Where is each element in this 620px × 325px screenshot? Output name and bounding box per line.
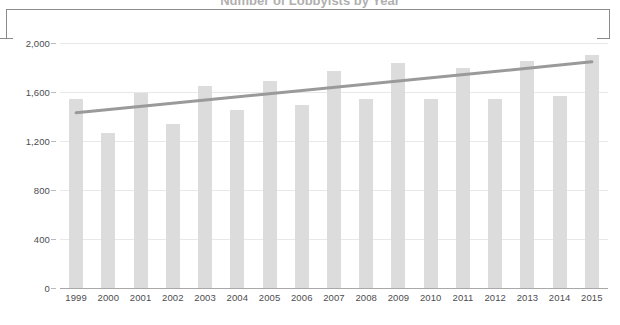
- y-tick-label: 0: [45, 283, 50, 294]
- x-tick-label: 2014: [544, 292, 576, 303]
- x-tick-label: 2001: [124, 292, 156, 303]
- x-tick-label: 2005: [253, 292, 285, 303]
- y-tick-label: 2,000: [26, 38, 50, 49]
- x-tick-label: 2003: [189, 292, 221, 303]
- trend-line-segment: [76, 62, 592, 113]
- x-tick-label: 2009: [382, 292, 414, 303]
- y-tick-mark: [51, 239, 56, 240]
- plot-area: 1999200020012002200320042005200620072008…: [60, 43, 608, 288]
- y-tick-mark: [51, 190, 56, 191]
- selection-bracket-foot-right: [597, 38, 610, 39]
- chart-title-text: Number of Lobbyists by Year: [0, 0, 620, 8]
- x-tick-label: 2011: [447, 292, 479, 303]
- lobbyists-bar-chart: Number of Lobbyists by Year 04008001,200…: [0, 0, 620, 325]
- x-axis-line: [60, 288, 608, 289]
- trendline: [60, 43, 608, 288]
- x-tick-label: 2015: [576, 292, 608, 303]
- y-tick-label: 1,600: [26, 87, 50, 98]
- selection-bracket: [6, 9, 610, 39]
- x-tick-label: 1999: [60, 292, 92, 303]
- y-tick-mark: [51, 288, 56, 289]
- x-tick-label: 2002: [157, 292, 189, 303]
- y-tick-label: 800: [34, 185, 50, 196]
- y-tick-mark: [51, 92, 56, 93]
- y-axis-labels: 04008001,2001,6002,000: [0, 43, 56, 288]
- x-tick-label: 2007: [318, 292, 350, 303]
- x-tick-label: 2012: [479, 292, 511, 303]
- x-tick-label: 2013: [511, 292, 543, 303]
- chart-title-clipped: Number of Lobbyists by Year: [0, 0, 620, 8]
- x-tick-label: 2006: [286, 292, 318, 303]
- y-tick-mark: [51, 43, 56, 44]
- y-tick-label: 400: [34, 234, 50, 245]
- x-tick-label: 2004: [221, 292, 253, 303]
- x-tick-label: 2000: [92, 292, 124, 303]
- x-tick-label: 2008: [350, 292, 382, 303]
- x-tick-label: 2010: [415, 292, 447, 303]
- y-tick-mark: [51, 141, 56, 142]
- y-tick-label: 1,200: [26, 136, 50, 147]
- selection-bracket-foot-left: [0, 38, 13, 39]
